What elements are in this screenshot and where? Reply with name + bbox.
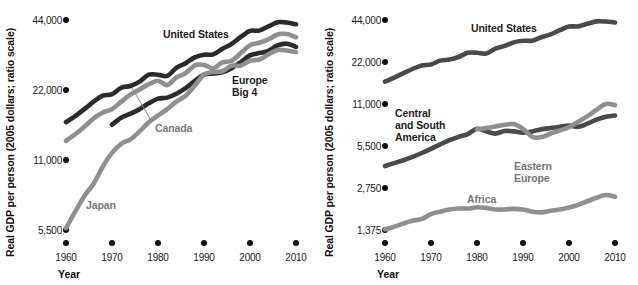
chart-panel-right: Real GDP per person (2005 dollars; ratio… [319, 0, 638, 285]
gdp-per-person-figure: Real GDP per person (2005 dollars; ratio… [0, 0, 638, 285]
plot-lines-left [0, 0, 319, 285]
series-label-united-states-left: United States [163, 28, 229, 40]
series-label-japan-left: Japan [86, 199, 116, 211]
series-label-europe-big4-left: EuropeBig 4 [232, 74, 268, 98]
series-label-africa-right: Africa [467, 193, 496, 205]
plot-lines-right [319, 0, 638, 285]
series-label-eastern-europe-right: EasternEurope [514, 160, 552, 184]
series-line-africa [385, 195, 615, 229]
series-label-united-states-right: United States [471, 22, 537, 34]
chart-panel-left: Real GDP per person (2005 dollars; ratio… [0, 0, 319, 285]
series-label-central-south-america-right: Centraland SouthAmerica [395, 107, 445, 143]
series-label-canada-left: Canada [155, 122, 192, 134]
